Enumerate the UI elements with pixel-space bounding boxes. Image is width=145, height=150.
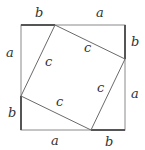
label-c-bottom: c — [56, 94, 64, 109]
label-top-a: a — [96, 5, 104, 20]
diagram-canvas: b a b a a b a b c c c c — [0, 0, 145, 150]
label-right-a: a — [131, 86, 139, 101]
label-c-right: c — [97, 80, 105, 95]
label-left-b: b — [8, 105, 16, 120]
pythagoras-diagram: b a b a a b a b c c c c — [0, 0, 145, 150]
label-bottom-a: a — [51, 133, 59, 148]
label-bottom-b: b — [105, 134, 113, 149]
label-top-b: b — [35, 5, 43, 20]
label-right-b: b — [131, 34, 139, 49]
label-c-left: c — [45, 54, 53, 69]
outer-square — [21, 25, 125, 130]
label-left-a: a — [6, 45, 14, 60]
inner-square — [21, 25, 125, 130]
label-c-top: c — [84, 40, 92, 55]
